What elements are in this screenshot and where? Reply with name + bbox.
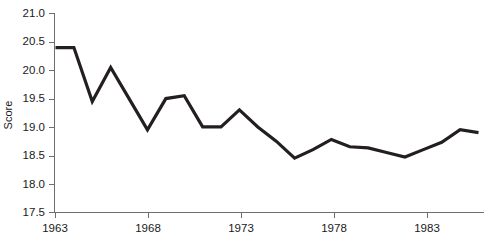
- y-tick-label: 19.0: [23, 121, 45, 133]
- y-tick-label: 20.5: [23, 35, 45, 47]
- x-tick-label: 1968: [135, 222, 161, 234]
- y-tick-label: 18.5: [23, 149, 45, 161]
- x-tick-labels: 1963 1968 1973 1978 1983: [42, 222, 440, 234]
- x-tick-label: 1983: [414, 222, 440, 234]
- y-tick-labels: 21.0 20.5 20.0 19.5 19.0 18.5 18.0 17.5: [23, 7, 45, 218]
- line-chart: Score 21.0 20.5 20.0 19.5 19.0 18.5 18.0…: [0, 0, 497, 240]
- x-tick-label: 1973: [228, 222, 254, 234]
- y-axis-title: Score: [2, 101, 14, 130]
- y-tick-label: 18.0: [23, 178, 45, 190]
- y-tick-label: 20.0: [23, 64, 45, 76]
- data-series-line: [56, 48, 479, 159]
- y-tick-label: 19.5: [23, 92, 45, 104]
- x-tick-marks: [56, 213, 428, 219]
- chart-container: Score 21.0 20.5 20.0 19.5 19.0 18.5 18.0…: [0, 0, 497, 240]
- y-tick-marks: [49, 14, 55, 213]
- y-tick-label: 17.5: [23, 206, 45, 218]
- y-tick-label: 21.0: [23, 7, 45, 19]
- x-tick-label: 1978: [321, 222, 347, 234]
- x-tick-label: 1963: [42, 222, 68, 234]
